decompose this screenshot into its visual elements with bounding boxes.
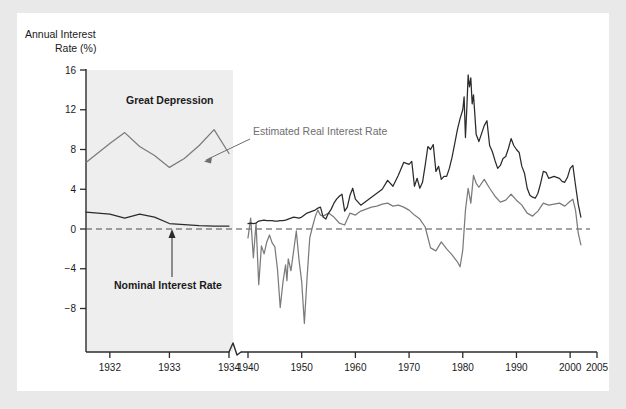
x-tick-label: 2005 <box>586 362 609 373</box>
x-tick-label: 1960 <box>344 362 367 373</box>
x-axis-ticks: 1932193319341940195019601970198019902000… <box>99 352 609 373</box>
y-tick-label: 12 <box>65 104 77 115</box>
x-tick-label: 1970 <box>398 362 421 373</box>
x-tick-label: 1932 <box>99 362 122 373</box>
interest-rate-chart: 1612840−4−8 1932193319341940195019601970… <box>0 0 626 409</box>
y-tick-label: −4 <box>65 263 77 274</box>
figure-root: 1612840−4−8 1932193319341940195019601970… <box>0 0 626 409</box>
y-tick-label: 8 <box>70 144 76 155</box>
y-tick-label: −8 <box>65 303 77 314</box>
x-tick-label: 2000 <box>559 362 582 373</box>
x-tick-label: 1933 <box>158 362 181 373</box>
x-tick-label: 1940 <box>237 362 260 373</box>
x-tick-label: 1980 <box>452 362 475 373</box>
annotation-nominal-interest-rate: Nominal Interest Rate <box>114 279 222 291</box>
y-tick-label: 4 <box>70 184 76 195</box>
y-axis-title-line2: Rate (%) <box>55 42 96 54</box>
great-depression-shaded-region <box>86 70 233 352</box>
y-axis-ticks: 1612840−4−8 <box>65 65 86 315</box>
annotation-great-depression: Great Depression <box>126 94 214 106</box>
x-tick-label: 1950 <box>291 362 314 373</box>
y-axis-title-line1: Annual Interest <box>25 28 96 40</box>
y-tick-label: 0 <box>70 224 76 235</box>
x-tick-label: 1990 <box>505 362 528 373</box>
annotation-estimated-real-interest-rate: Estimated Real Interest Rate <box>253 125 387 137</box>
y-tick-label: 16 <box>65 65 77 76</box>
